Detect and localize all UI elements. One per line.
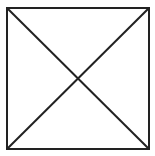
- diagram-canvas: [0, 0, 155, 156]
- square-diagonals-figure: [0, 0, 155, 156]
